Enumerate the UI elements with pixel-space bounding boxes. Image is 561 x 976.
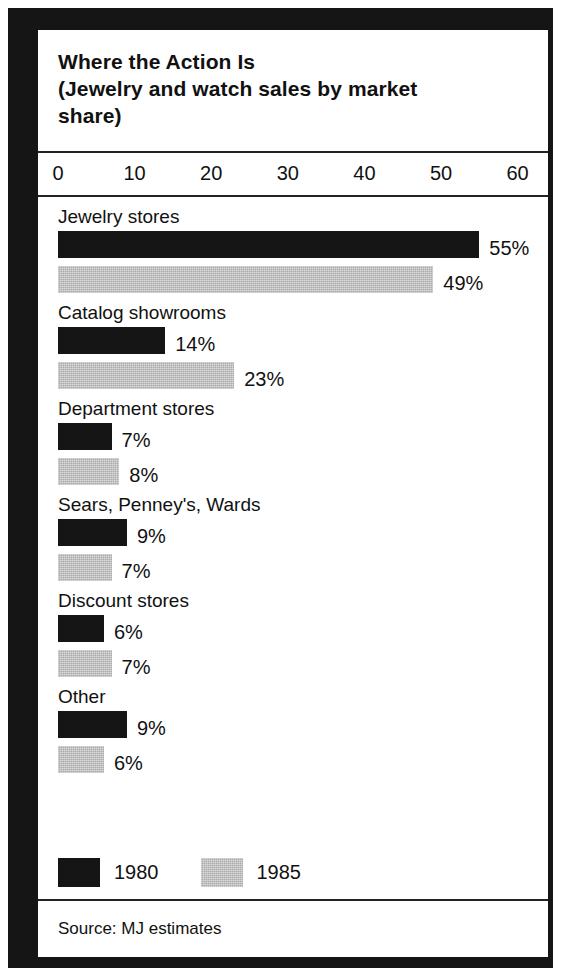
legend-label: 1980 [114,861,159,884]
x-axis-tick-30: 30 [277,162,299,185]
x-axis-tick-40: 40 [353,162,375,185]
plot-area: Jewelry stores55%49%Catalog showrooms14%… [38,197,548,845]
chart-legend: 19801985 [38,845,548,901]
bar-row: 49% [58,266,548,301]
bar-group: Catalog showrooms14%23% [58,301,548,397]
x-axis-tick-0: 0 [52,162,63,185]
bar-1985 [58,650,112,677]
legend-label: 1985 [257,861,302,884]
bar-1980 [58,711,127,738]
bar-1980 [58,327,165,354]
source-note: Source: MJ estimates [38,901,548,957]
source-text: Source: MJ estimates [58,919,221,939]
bar-row: 9% [58,711,548,746]
bar-row: 14% [58,327,548,362]
bar-1985 [58,362,234,389]
chart-screenshot: Where the Action Is (Jewelry and watch s… [0,0,561,976]
bar-value-label: 9% [137,715,166,742]
bar-row: 7% [58,554,548,589]
bar-row: 55% [58,231,548,266]
legend-item-1980: 1980 [58,858,159,887]
bar-value-label: 55% [489,235,529,262]
category-label: Jewelry stores [58,205,548,229]
x-axis-tick-20: 20 [200,162,222,185]
bar-1980 [58,615,104,642]
bar-1980 [58,519,127,546]
x-axis-tick-60: 60 [506,162,528,185]
bar-value-label: 23% [244,366,284,393]
bar-group: Sears, Penney's, Wards9%7% [58,493,548,589]
bar-1980 [58,423,112,450]
bar-1985 [58,266,433,293]
bar-value-label: 9% [137,523,166,550]
page-title-line-2: (Jewelry and watch sales by market [58,75,528,102]
bar-row: 9% [58,519,548,554]
page-title-line-1: Where the Action Is [58,48,528,75]
bar-row: 7% [58,423,548,458]
bar-1985 [58,746,104,773]
bar-1980 [58,231,479,258]
bar-value-label: 6% [114,750,143,777]
category-label: Sears, Penney's, Wards [58,493,548,517]
category-label: Catalog showrooms [58,301,548,325]
bar-group: Discount stores6%7% [58,589,548,685]
page-title-line-3: share) [58,102,528,129]
bar-row: 7% [58,650,548,685]
bar-value-label: 7% [122,558,151,585]
legend-swatch-1980 [58,858,100,887]
bar-1985 [58,554,112,581]
bar-value-label: 7% [122,654,151,681]
bar-row: 6% [58,746,548,781]
x-axis-tick-10: 10 [123,162,145,185]
category-label: Department stores [58,397,548,421]
bar-row: 23% [58,362,548,397]
bar-1985 [58,458,119,485]
category-label: Other [58,685,548,709]
bar-value-label: 14% [175,331,215,358]
bar-row: 8% [58,458,548,493]
legend-item-1985: 1985 [201,858,302,887]
x-axis-tick-50: 50 [430,162,452,185]
bar-value-label: 8% [129,462,158,489]
legend-swatch-1985 [201,858,243,887]
bar-group: Other9%6% [58,685,548,781]
poster-frame: Where the Action Is (Jewelry and watch s… [8,8,553,968]
bar-value-label: 49% [443,270,483,297]
bar-value-label: 7% [122,427,151,454]
chart-panel: Where the Action Is (Jewelry and watch s… [38,30,548,957]
bar-group: Jewelry stores55%49% [58,205,548,301]
bar-value-label: 6% [114,619,143,646]
chart-title-block: Where the Action Is (Jewelry and watch s… [38,30,548,153]
x-axis: 0102030405060 [38,153,548,197]
bar-row: 6% [58,615,548,650]
category-label: Discount stores [58,589,548,613]
bar-group: Department stores7%8% [58,397,548,493]
